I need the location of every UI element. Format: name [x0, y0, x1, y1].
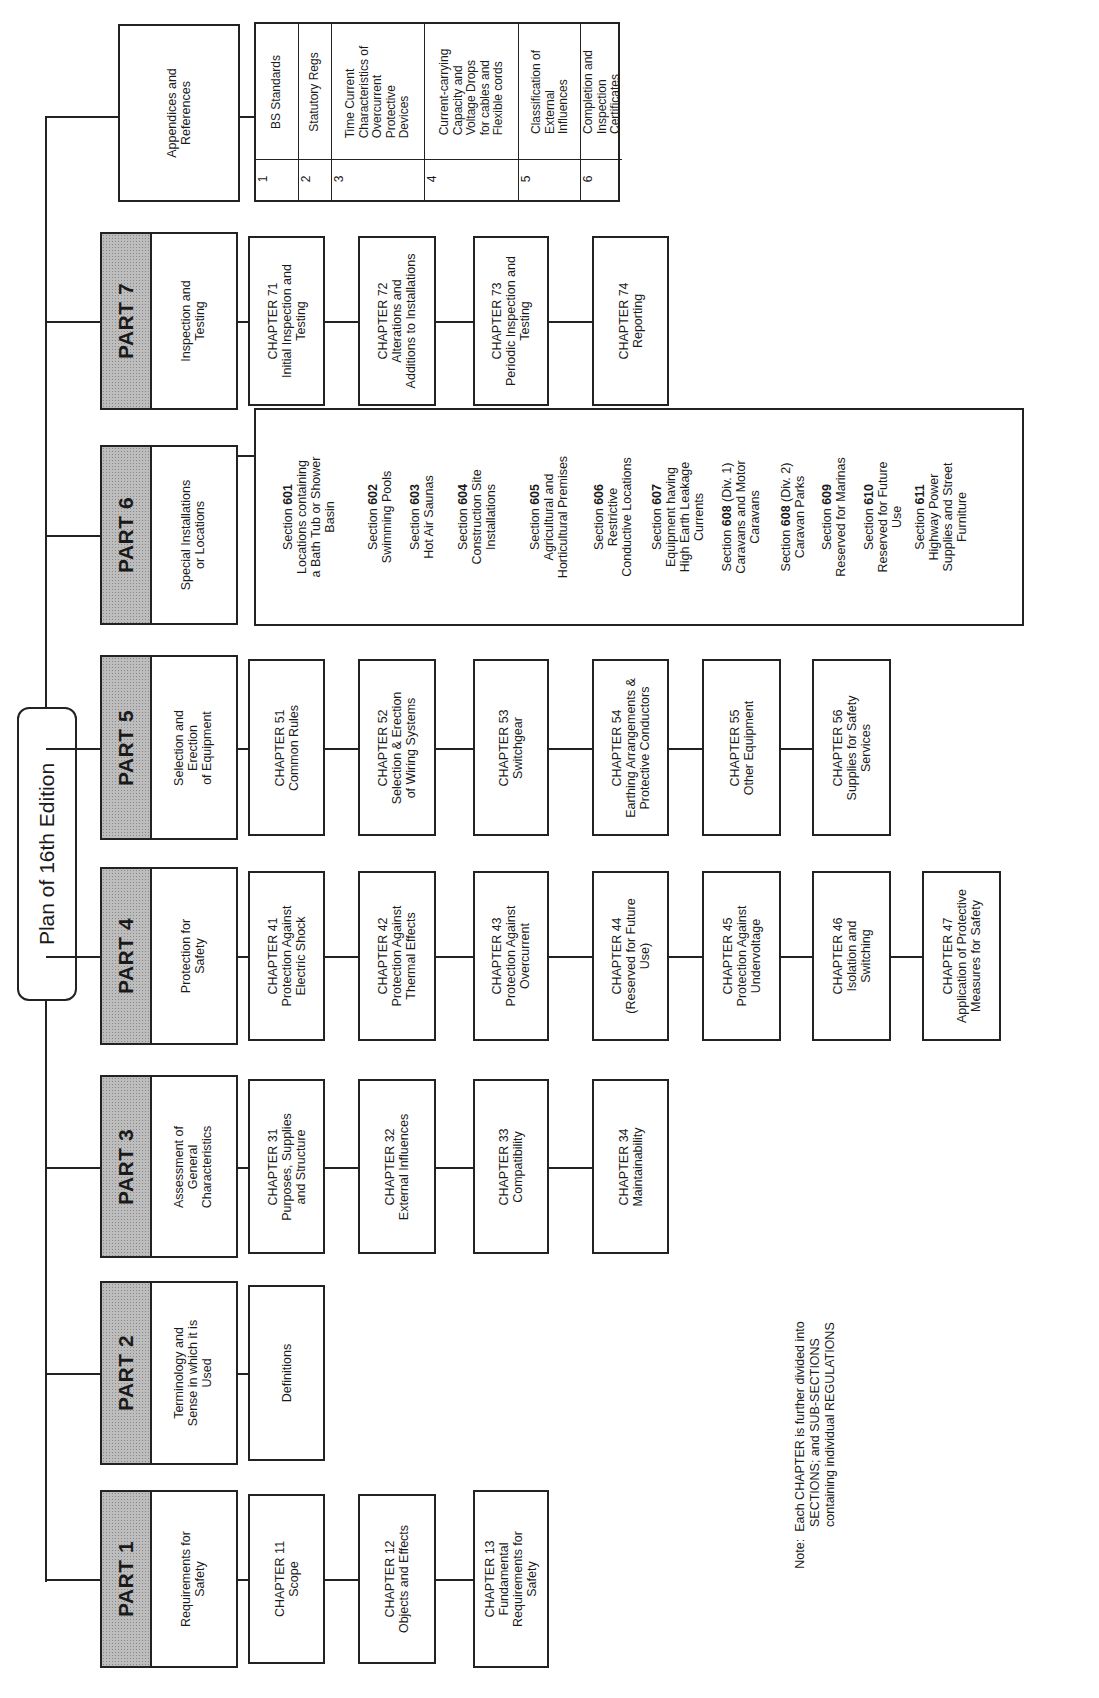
section-text: Section 610Reserved for Future Use [862, 461, 904, 572]
section-item: Section 609Reserved for Marinas [816, 410, 852, 624]
chapter-connector [781, 956, 812, 958]
appendix-text: Time Current Characteristics of Overcurr… [344, 46, 412, 139]
chapter-connector [436, 1167, 473, 1169]
sections-list: Section 601Locations containing a Bath T… [256, 410, 1022, 624]
chapter-connector [325, 748, 358, 750]
appendix-row: Classification of External Influences5 [518, 24, 580, 200]
part-description-text: Special Installations or Locations [179, 480, 207, 590]
part-label: PART 2 [115, 1335, 137, 1411]
branch-line [46, 1373, 100, 1375]
section-text: Section 609Reserved for Marinas [820, 457, 848, 577]
trunk-line-top [45, 116, 47, 708]
appendix-number-cell: 5 [519, 159, 580, 200]
appendix-row: Statutory Regs2 [298, 24, 331, 200]
chapter-text: CHAPTER 32 External Influences [383, 1113, 411, 1219]
section-item: Section 610Reserved for Future Use [860, 410, 906, 624]
branch-line [46, 748, 100, 750]
branch-line [46, 535, 100, 537]
appendix-text: Classification of External Influences [529, 50, 570, 134]
chapter-connector [549, 956, 592, 958]
chapter-connector [325, 1579, 358, 1581]
chapter-text: Definitions [280, 1344, 294, 1402]
chapter-box: CHAPTER 47 Application of Protective Mea… [922, 871, 1001, 1041]
branch-line [46, 321, 100, 323]
chapter-box: CHAPTER 33 Compatibility [473, 1079, 549, 1254]
part-description: Selection and Erection of Equipment [150, 657, 236, 838]
section-title: Caravan Parks [793, 476, 807, 559]
appendices-connector [240, 116, 254, 118]
section-title: Reserved for Future Use [876, 461, 904, 572]
appendices-header: Appendices and References [118, 24, 240, 202]
section-number: 608 [720, 505, 734, 526]
chapter-box: CHAPTER 32 External Influences [358, 1079, 436, 1254]
appendix-row: Current-carrying Capacity and Voltage Dr… [424, 24, 518, 200]
appendix-row: Completion and Inspection Certificates6 [580, 24, 622, 200]
appendix-text: Statutory Regs [308, 52, 322, 131]
chapter-box: CHAPTER 54 Earthing Arrangements & Prote… [592, 659, 669, 836]
chapter-connector [325, 321, 358, 323]
section-prefix: Section [720, 526, 734, 571]
sections-connector [238, 455, 254, 457]
branch-line [46, 1579, 100, 1581]
chapter-connector [781, 748, 812, 750]
section-prefix: Section [820, 505, 834, 550]
chapter-text: CHAPTER 44 (Reserved for Future Use) [610, 898, 652, 1013]
branch-line-appendices [46, 116, 118, 118]
chapter-connector [238, 1373, 248, 1375]
chapter-connector [238, 956, 248, 958]
chapter-text: CHAPTER 45 Protection Against Undervolta… [721, 906, 763, 1007]
section-number: 601 [281, 484, 295, 505]
part-label: PART 7 [115, 283, 137, 359]
chapter-text: CHAPTER 72 Alterations and Additions to … [376, 254, 418, 389]
chapter-text: CHAPTER 47 Application of Protective Mea… [941, 889, 983, 1023]
part-description: Terminology and Sense in which it is Use… [150, 1283, 236, 1463]
part-label: PART 1 [115, 1541, 137, 1617]
chapter-text: CHAPTER 33 Compatibility [497, 1128, 525, 1205]
section-prefix: Section [528, 505, 542, 550]
chapter-connector [238, 1167, 248, 1169]
chapter-box: CHAPTER 52 Selection & Erection of Wirin… [358, 659, 436, 836]
section-item: Section 603Hot Air Saunas [406, 410, 438, 624]
chapter-box: CHAPTER 31 Purposes, Supplies and Struct… [248, 1079, 325, 1254]
section-number: 607 [650, 484, 664, 505]
chapter-connector [436, 956, 473, 958]
footnote-text: Note: Each CHAPTER is further divided in… [793, 1321, 838, 1568]
chapter-connector [325, 956, 358, 958]
part-label-band: PART 6 [102, 447, 152, 623]
section-title: Caravans and Motor Caravans [734, 460, 762, 573]
appendix-number-cell: 1 [256, 159, 298, 200]
chapter-text: CHAPTER 73 Periodic Inspection and Testi… [490, 256, 532, 386]
section-prefix: Section [456, 505, 470, 550]
appendix-text-cell: Completion and Inspection Certificates [581, 24, 622, 160]
chapter-box: CHAPTER 43 Protection Against Overcurren… [473, 871, 549, 1041]
chapter-text: CHAPTER 13 Fundamental Requirements for … [483, 1531, 539, 1627]
section-prefix: Section [592, 505, 606, 550]
section-text: Section 606Restrictive Conductive Locati… [592, 457, 634, 577]
chapter-box: CHAPTER 53 Switchgear [473, 659, 549, 836]
section-item: Section 604Construction Site Installatio… [452, 410, 502, 624]
appendix-number: 6 [581, 176, 595, 183]
section-text: Section 608 (Div. 2)Caravan Parks [779, 463, 807, 572]
chapter-box: CHAPTER 74 Reporting [592, 236, 669, 406]
section-number: 604 [456, 484, 470, 505]
section-number: 608 [779, 505, 793, 526]
section-item: Section 605Agricultural and Horticultura… [524, 410, 574, 624]
section-text: Section 604Construction Site Installatio… [456, 469, 498, 564]
section-text: Section 601Locations containing a Bath T… [281, 457, 337, 578]
appendix-number: 3 [332, 176, 346, 183]
section-item: Section 606Restrictive Conductive Locati… [588, 410, 638, 624]
chapter-text: CHAPTER 46 Isolation and Switching [831, 917, 873, 994]
chapter-text: CHAPTER 51 Common Rules [273, 704, 301, 790]
chapter-text: CHAPTER 54 Earthing Arrangements & Prote… [610, 678, 652, 818]
section-prefix: Section [366, 505, 380, 550]
part-7-header: PART 7Inspection and Testing [100, 232, 238, 410]
appendix-number: 1 [256, 176, 270, 183]
section-prefix: Section [779, 526, 793, 571]
appendix-number-cell: 6 [581, 159, 622, 200]
appendix-text-cell: Current-carrying Capacity and Voltage Dr… [425, 24, 518, 160]
chapter-box: CHAPTER 51 Common Rules [248, 659, 325, 836]
section-title: Reserved for Marinas [834, 457, 848, 577]
section-title: Hot Air Saunas [422, 475, 436, 558]
section-title: Restrictive Conductive Locations [606, 457, 634, 577]
sections-box: Section 601Locations containing a Bath T… [254, 408, 1024, 626]
